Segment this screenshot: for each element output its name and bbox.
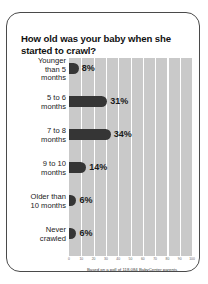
source-note: Based on a poll of 118,084 BabyCenter pa… bbox=[69, 267, 195, 272]
bar-value-label: 31% bbox=[110, 96, 128, 106]
category-label-line: months bbox=[11, 103, 66, 112]
chart-card: How old was your baby when she started t… bbox=[6, 12, 200, 272]
category-label-line: crawled bbox=[11, 235, 66, 244]
bar-value-label: 8% bbox=[82, 63, 95, 73]
bar bbox=[69, 96, 107, 107]
category-label-line: months bbox=[11, 169, 66, 178]
bar-row: Nevercrawled6% bbox=[7, 223, 208, 256]
bar-rows: Youngerthan 5months8%5 to 6months31%7 to… bbox=[7, 58, 208, 256]
category-label: 7 to 8months bbox=[11, 127, 66, 144]
category-label-line: months bbox=[11, 136, 66, 145]
bar bbox=[69, 228, 76, 239]
category-label: 9 to 10months bbox=[11, 160, 66, 177]
x-axis-tick-label: 100 bbox=[189, 257, 195, 261]
x-axis-tick-label: 30 bbox=[104, 257, 108, 261]
x-axis-tick-label: 40 bbox=[116, 257, 120, 261]
x-axis-tick-label: 70 bbox=[153, 257, 157, 261]
bar bbox=[69, 195, 76, 206]
x-axis-tick-label: 60 bbox=[141, 257, 145, 261]
bar bbox=[69, 162, 86, 173]
bar-row: 7 to 8months34% bbox=[7, 124, 208, 157]
x-axis-tick-label: 20 bbox=[92, 257, 96, 261]
bar-value-label: 6% bbox=[79, 195, 92, 205]
bar-value-label: 6% bbox=[79, 228, 92, 238]
category-label: Youngerthan 5months bbox=[11, 57, 66, 83]
category-label-line: months bbox=[11, 74, 66, 83]
x-axis: 0102030405060708090100 bbox=[69, 257, 192, 265]
bar-value-label: 34% bbox=[114, 129, 132, 139]
x-axis-tick-label: 0 bbox=[68, 257, 70, 261]
category-label: Older than10 months bbox=[11, 193, 66, 210]
x-axis-tick-label: 90 bbox=[178, 257, 182, 261]
bar bbox=[69, 129, 111, 140]
bar-row: 5 to 6months31% bbox=[7, 91, 208, 124]
category-label: Nevercrawled bbox=[11, 226, 66, 243]
bar bbox=[69, 63, 79, 74]
category-label-line: 10 months bbox=[11, 202, 66, 211]
chart-title: How old was your baby when she started t… bbox=[21, 33, 193, 56]
bar-row: Older than10 months6% bbox=[7, 190, 208, 223]
x-axis-tick-label: 80 bbox=[166, 257, 170, 261]
bar-value-label: 14% bbox=[89, 162, 107, 172]
bar-row: 9 to 10months14% bbox=[7, 157, 208, 190]
bar-row: Youngerthan 5months8% bbox=[7, 58, 208, 91]
x-axis-tick-label: 50 bbox=[129, 257, 133, 261]
category-label: 5 to 6months bbox=[11, 94, 66, 111]
x-axis-tick-label: 10 bbox=[79, 257, 83, 261]
